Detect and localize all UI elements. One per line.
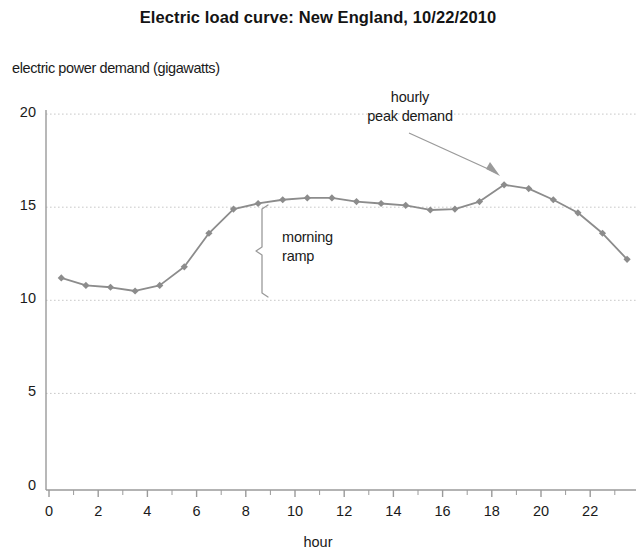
x-axis-tick-label: 14 [378, 503, 408, 519]
y-axis-tick-label: 0 [2, 477, 36, 493]
data-point-marker [353, 198, 360, 205]
y-axis-tick-label: 20 [2, 104, 36, 120]
x-axis-tick-label: 0 [34, 503, 64, 519]
data-point-marker [279, 196, 286, 203]
x-axis-tick-label: 4 [132, 503, 162, 519]
data-point-marker [378, 200, 385, 207]
y-axis-tick-label: 10 [2, 290, 36, 306]
y-axis-tick-label: 5 [2, 383, 36, 399]
y-axis-tick-label: 15 [2, 197, 36, 213]
x-axis-tick-label: 18 [477, 503, 507, 519]
x-axis-tick-label: 16 [428, 503, 458, 519]
x-axis-tick-label: 22 [575, 503, 605, 519]
hourly-peak-demand-arrow [409, 133, 500, 176]
data-point-marker [82, 282, 89, 289]
morning-ramp-bracket [256, 205, 268, 297]
x-axis-ticks [49, 490, 615, 497]
data-point-marker [402, 202, 409, 209]
data-point-marker [255, 200, 262, 207]
x-axis-tick-label: 2 [83, 503, 113, 519]
x-axis-tick-label: 8 [231, 503, 261, 519]
data-point-marker [525, 185, 532, 192]
data-point-marker [58, 274, 65, 281]
data-point-marker [132, 287, 139, 294]
x-axis-tick-label: 20 [526, 503, 556, 519]
data-point-marker [107, 284, 114, 291]
x-axis-label: hour [0, 534, 636, 550]
plot-area [0, 0, 636, 559]
data-point-marker [550, 196, 557, 203]
data-point-marker [304, 194, 311, 201]
data-point-marker [427, 206, 434, 213]
x-axis-tick-label: 12 [329, 503, 359, 519]
data-point-marker [328, 194, 335, 201]
annotation-hourly-peak-demand: hourly peak demand [330, 88, 490, 126]
annotation-morning-ramp: morning ramp [282, 228, 392, 266]
x-axis-tick-label: 10 [280, 503, 310, 519]
electric-load-curve-chart: Electric load curve: New England, 10/22/… [0, 0, 636, 559]
x-axis-tick-label: 6 [182, 503, 212, 519]
data-point-marker [451, 205, 458, 212]
